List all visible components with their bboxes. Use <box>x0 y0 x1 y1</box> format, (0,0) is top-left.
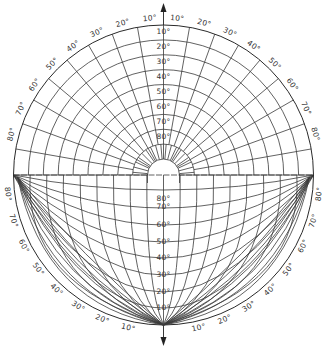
azimuth-line-fine <box>175 153 186 164</box>
azimuth-line-fine <box>179 167 193 171</box>
lower-rim-label-right: 50° <box>281 261 297 278</box>
zenith-circle <box>148 159 180 175</box>
lower-center-label: 20° <box>156 287 170 296</box>
lower-rim-label-right: 80° <box>314 186 323 201</box>
upper-center-label: 70° <box>156 117 170 126</box>
lower-center-label: 30° <box>156 270 170 279</box>
lower-rim-label-left: 60° <box>17 238 31 255</box>
south-arrow-icon <box>161 326 167 346</box>
azimuth-line-fine <box>133 172 148 173</box>
azimuth-line <box>137 27 158 144</box>
upper-center-label: 10° <box>156 27 170 36</box>
azimuth-line-fine <box>179 172 194 173</box>
lower-rim-label-right: 40° <box>262 281 279 297</box>
upper-rim-label-right: 10° <box>170 13 185 23</box>
upper-center-label: 30° <box>156 57 170 66</box>
azimuth-line <box>194 149 311 170</box>
grid-lines <box>14 25 314 325</box>
azimuth-line-fine <box>168 145 172 159</box>
upper-center-label: 40° <box>156 72 170 81</box>
azimuth-line-fine <box>156 145 160 159</box>
lower-rim-label-left: 30° <box>70 299 87 314</box>
upper-rim-label-right: 70° <box>299 100 313 117</box>
upper-rim-label-left: 30° <box>89 25 106 39</box>
lower-rim-label-left: 10° <box>120 322 136 334</box>
azimuth-line <box>193 124 305 165</box>
upper-rim-label-right: 30° <box>222 25 239 39</box>
protractor-diagram: Sky-view protractor diagram 10°20°30°40°… <box>0 0 323 350</box>
lower-rim-label-left: 70° <box>7 213 20 229</box>
lower-rim-label-left: 80° <box>3 186 14 201</box>
upper-rim-label-right: 20° <box>196 17 212 29</box>
azimuth-line-fine <box>142 153 153 164</box>
azimuth-line-fine <box>134 167 148 171</box>
azimuth-line-fine <box>161 144 162 159</box>
upper-center-label: 80° <box>156 132 170 141</box>
lower-center-label: 10° <box>156 303 170 312</box>
lower-center-label: 60° <box>156 220 170 229</box>
azimuth-line <box>23 124 135 165</box>
lower-center-label: 40° <box>156 253 170 262</box>
upper-rim-label-right: 50° <box>267 55 283 71</box>
upper-center-label: 50° <box>156 87 170 96</box>
diagram-canvas: 10°20°30°40°50°60°70°80°10°20°30°40°50°6… <box>0 0 323 350</box>
azimuth-line <box>112 34 153 146</box>
lower-rim-label-right: 30° <box>240 299 257 314</box>
lower-rim-label-right: 10° <box>191 322 207 334</box>
azimuth-line <box>16 149 133 170</box>
upper-rim-label-left: 10° <box>142 13 157 23</box>
azimuth-line <box>174 34 215 146</box>
upper-rim-label-left: 80° <box>5 126 17 142</box>
lower-rim-label-left: 40° <box>48 281 65 297</box>
lower-rim-label-left: 50° <box>31 261 47 278</box>
upper-center-label: 60° <box>156 102 170 111</box>
azimuth-line <box>169 27 190 144</box>
lower-center-label: 70° <box>156 202 170 211</box>
north-arrow-icon <box>161 3 167 25</box>
lower-rim-label-right: 60° <box>296 238 310 255</box>
lower-center-label: 50° <box>156 237 170 246</box>
upper-rim-label-left: 50° <box>44 55 60 71</box>
upper-rim-label-left: 70° <box>14 100 28 117</box>
lower-rim-label-right: 70° <box>307 213 320 229</box>
upper-rim-label-right: 80° <box>309 126 321 142</box>
upper-rim-label-left: 20° <box>115 17 131 29</box>
degree-labels: 10°20°30°40°50°60°70°80°10°20°30°40°50°6… <box>3 13 323 333</box>
azimuth-line-fine <box>165 144 166 159</box>
upper-center-label: 20° <box>156 42 170 51</box>
